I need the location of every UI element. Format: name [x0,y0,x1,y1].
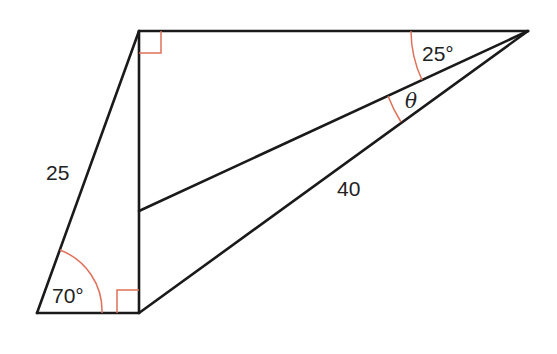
label-side-40: 40 [337,177,360,200]
right-angle-marker-top [139,31,161,53]
geometry-diagram: 25 40 70° 25° θ [0,0,557,354]
right-angle-marker-bottom [117,290,139,313]
inner-diagonal-edge [139,31,528,211]
label-angle-70: 70° [52,284,84,307]
label-side-25: 25 [46,161,69,184]
angle-arc-25 [411,31,422,80]
angle-arc-theta [388,96,401,122]
label-angle-25: 25° [422,42,454,65]
label-angle-theta: θ [405,89,417,113]
long-diagonal-edge [139,31,528,313]
